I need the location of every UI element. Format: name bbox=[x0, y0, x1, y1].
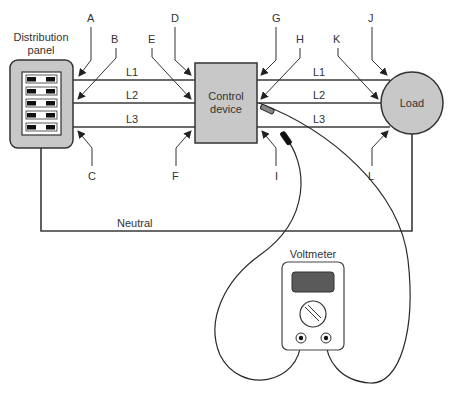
distribution-panel: Distribution panel bbox=[10, 31, 73, 148]
distribution-panel-label-1: Distribution bbox=[13, 31, 68, 43]
control-device: Control device bbox=[195, 63, 257, 143]
point-d-label: D bbox=[171, 12, 179, 24]
point-k-label: K bbox=[333, 33, 341, 45]
jack-voltage bbox=[321, 333, 331, 343]
label-l1-left: L1 bbox=[126, 66, 138, 78]
label-l2-right: L2 bbox=[313, 89, 325, 101]
label-l3-left: L3 bbox=[126, 113, 138, 125]
point-c-label: C bbox=[88, 170, 96, 182]
voltmeter-display bbox=[292, 272, 334, 292]
load: Load bbox=[381, 72, 443, 134]
wire-neutral bbox=[41, 134, 412, 231]
point-a-label: A bbox=[87, 12, 95, 24]
selector-dial bbox=[300, 301, 326, 327]
point-g-label: G bbox=[272, 12, 281, 24]
neutral-label: Neutral bbox=[117, 217, 152, 229]
control-device-label-1: Control bbox=[208, 90, 243, 102]
probe-i bbox=[280, 131, 292, 145]
voltmeter: Voltmeter bbox=[282, 248, 344, 350]
label-l2-left: L2 bbox=[126, 89, 138, 101]
jack-common bbox=[296, 333, 306, 343]
point-b-label: B bbox=[111, 33, 118, 45]
label-l1-right: L1 bbox=[313, 66, 325, 78]
circuit-diagram: Neutral L1 L2 L3 L1 L2 L3 Distribution p… bbox=[0, 0, 456, 396]
point-j-label: J bbox=[368, 12, 374, 24]
distribution-panel-label-2: panel bbox=[28, 44, 55, 56]
control-device-label-2: device bbox=[210, 103, 242, 115]
probe-h bbox=[260, 104, 275, 114]
point-h-label: H bbox=[296, 33, 304, 45]
point-e-label: E bbox=[148, 33, 155, 45]
point-f-label: F bbox=[172, 170, 179, 182]
point-i-label: I bbox=[275, 170, 278, 182]
load-label: Load bbox=[400, 97, 424, 109]
label-l3-right: L3 bbox=[313, 113, 325, 125]
voltmeter-label: Voltmeter bbox=[290, 248, 337, 260]
